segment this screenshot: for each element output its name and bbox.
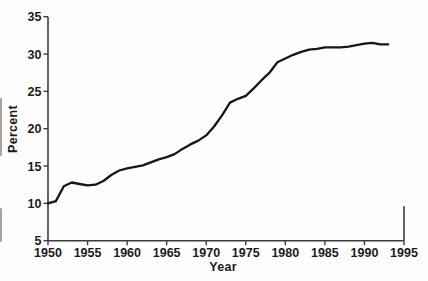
y-tick-label: 15 xyxy=(28,160,42,174)
y-tick-label: 10 xyxy=(28,197,42,211)
y-tick-label: 25 xyxy=(28,85,42,99)
x-tick-label: 1985 xyxy=(311,246,339,260)
x-tick-label: 1950 xyxy=(34,246,62,260)
x-tick-label: 1965 xyxy=(153,246,181,260)
x-tick-label: 1980 xyxy=(271,246,299,260)
x-tick-label: 1955 xyxy=(74,246,102,260)
x-tick-label: 1990 xyxy=(351,246,379,260)
y-tick-label: 20 xyxy=(28,122,42,136)
x-tick-label: 1960 xyxy=(113,246,141,260)
y-tick-label: 35 xyxy=(28,10,42,24)
x-tick-label: 1995 xyxy=(390,246,418,260)
x-tick-label: 1970 xyxy=(192,246,220,260)
line-chart-figure: Percent Year 510152025303519501955196019… xyxy=(0,0,428,281)
chart-canvas: 5101520253035195019551960196519701975198… xyxy=(0,0,428,281)
y-tick-label: 30 xyxy=(28,48,42,62)
x-tick-label: 1975 xyxy=(232,246,260,260)
data-line-percent xyxy=(48,43,388,204)
